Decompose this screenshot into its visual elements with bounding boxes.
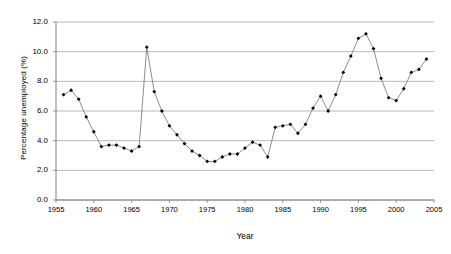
data-point-marker <box>409 71 413 75</box>
x-tick-label: 1985 <box>267 205 299 214</box>
data-point-marker <box>99 145 103 149</box>
unemployment-line-chart: Percentage unemployed (%) Year 0.02.04.0… <box>0 0 451 254</box>
data-point-marker <box>379 76 383 80</box>
x-tick-label: 2000 <box>380 205 412 214</box>
data-point-marker <box>364 32 368 36</box>
data-point-marker <box>326 109 330 113</box>
x-tick-label: 1990 <box>305 205 337 214</box>
x-tick-label: 2005 <box>418 205 450 214</box>
y-tick-label: 4.0 <box>18 136 48 145</box>
data-series-line <box>64 34 427 162</box>
data-point-marker <box>137 145 141 149</box>
y-tick-label: 8.0 <box>18 76 48 85</box>
data-point-marker <box>387 96 391 100</box>
gridlines <box>56 22 434 200</box>
data-point-marker <box>334 93 338 97</box>
x-tick-label: 1965 <box>116 205 148 214</box>
y-tick-label: 12.0 <box>18 17 48 26</box>
data-point-marker <box>122 146 126 150</box>
data-point-marker <box>372 47 376 51</box>
x-tick-label: 1970 <box>153 205 185 214</box>
y-tick-label: 0.0 <box>18 195 48 204</box>
x-tick-label: 1960 <box>78 205 110 214</box>
y-tick-label: 2.0 <box>18 165 48 174</box>
data-point-marker <box>92 130 96 134</box>
plot-area <box>0 0 451 254</box>
data-point-marker <box>220 155 224 159</box>
data-point-marker <box>349 54 353 58</box>
data-point-marker <box>160 109 164 113</box>
data-point-marker <box>84 115 88 119</box>
x-tick-label: 1995 <box>342 205 374 214</box>
data-point-marker <box>115 143 119 147</box>
data-point-marker <box>145 45 149 49</box>
y-tick-label: 10.0 <box>18 47 48 56</box>
data-point-marker <box>281 124 285 128</box>
y-tick-label: 6.0 <box>18 106 48 115</box>
x-tick-label: 1955 <box>40 205 72 214</box>
data-point-marker <box>357 36 361 40</box>
data-point-marker <box>152 90 156 94</box>
data-point-marker <box>107 143 111 147</box>
data-point-marker <box>228 152 232 156</box>
data-point-marker <box>273 125 277 129</box>
x-tick-label: 1980 <box>229 205 261 214</box>
data-point-marker <box>62 93 66 97</box>
data-point-marker <box>213 160 217 164</box>
data-point-marker <box>341 71 345 75</box>
data-point-marker <box>130 149 134 153</box>
x-tick-label: 1975 <box>191 205 223 214</box>
